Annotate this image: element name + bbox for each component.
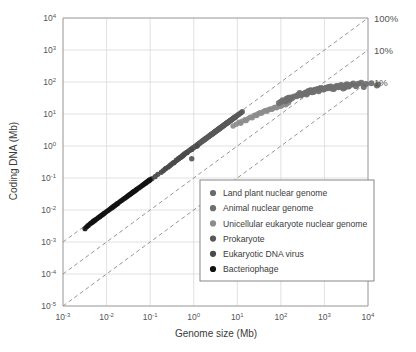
legend: Land plant nuclear genomeAnimal nuclear … bbox=[200, 180, 374, 281]
data-point bbox=[233, 114, 238, 119]
legend-item-label: Bacteriophage bbox=[223, 264, 279, 274]
legend-marker-icon bbox=[210, 205, 216, 211]
data-point bbox=[92, 218, 97, 223]
percent-label: 1% bbox=[374, 77, 388, 88]
legend-item[interactable]: Animal nuclear genome bbox=[210, 203, 314, 213]
percent-label: 10% bbox=[374, 45, 394, 56]
plot-canvas: 10-310-210-1100101102103104 10-510-410-3… bbox=[0, 0, 416, 352]
y-axis-title: Coding DNA (Mb) bbox=[8, 122, 19, 200]
data-point bbox=[147, 178, 152, 183]
data-point bbox=[363, 81, 369, 87]
x-axis-title: Genome size (Mb) bbox=[175, 328, 257, 339]
data-point bbox=[228, 118, 233, 123]
legend-marker-icon bbox=[210, 220, 216, 226]
figure-background bbox=[0, 0, 416, 352]
legend-item-label: Animal nuclear genome bbox=[223, 203, 314, 213]
data-point bbox=[189, 156, 194, 161]
legend-item-label: Unicellular eukaryote nuclear genome bbox=[223, 219, 367, 229]
legend-item[interactable]: Unicellular eukaryote nuclear genome bbox=[210, 219, 368, 229]
data-point bbox=[101, 211, 106, 216]
legend-item[interactable]: Land plant nuclear genome bbox=[210, 188, 327, 198]
data-point bbox=[171, 160, 176, 165]
data-point bbox=[283, 98, 289, 104]
data-point bbox=[180, 154, 185, 159]
data-point bbox=[167, 163, 172, 168]
data-point bbox=[345, 83, 351, 89]
percent-label: 100% bbox=[374, 13, 399, 24]
legend-marker-icon bbox=[210, 236, 216, 242]
legend-item-label: Land plant nuclear genome bbox=[223, 188, 327, 198]
data-point bbox=[184, 150, 189, 155]
legend-item[interactable]: Eukaryotic DNA virus bbox=[210, 249, 304, 259]
legend-marker-icon bbox=[210, 190, 216, 196]
data-point bbox=[240, 109, 245, 114]
data-point bbox=[162, 166, 167, 171]
scatter-plot-figure: 10-310-210-1100101102103104 10-510-410-3… bbox=[0, 0, 416, 352]
legend-item-label: Eukaryotic DNA virus bbox=[223, 249, 304, 259]
legend-marker-icon bbox=[210, 266, 216, 272]
data-point bbox=[82, 226, 87, 231]
data-point bbox=[195, 143, 200, 148]
legend-marker-icon bbox=[210, 251, 216, 257]
data-point bbox=[114, 202, 119, 207]
legend-item-label: Prokaryote bbox=[223, 234, 265, 244]
data-point bbox=[189, 147, 194, 152]
